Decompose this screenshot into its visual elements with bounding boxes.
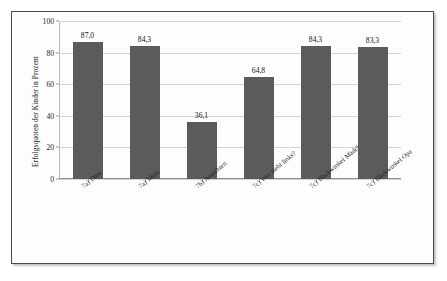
y-tick-label: 100 xyxy=(43,17,54,26)
bar: 83,3 xyxy=(358,47,388,179)
gridline xyxy=(59,179,401,180)
y-tick-mark xyxy=(56,21,59,22)
chart-frame: Erfolgsquoten der Kinder in Prozent 0204… xyxy=(11,11,434,264)
bar-chart: Erfolgsquoten der Kinder in Prozent 0204… xyxy=(12,12,435,265)
y-tick-mark xyxy=(56,84,59,85)
bar: 84,3 xyxy=(301,46,331,179)
y-tick-label: 80 xyxy=(46,48,54,57)
bar-value-label: 36,1 xyxy=(195,111,208,120)
bar: 87,0 xyxy=(73,42,103,179)
y-tick-label: 40 xyxy=(46,111,54,120)
bar-value-label: 64,8 xyxy=(252,66,265,75)
bar-value-label: 83,3 xyxy=(366,36,379,45)
y-tick-mark xyxy=(56,179,59,180)
y-tick-mark xyxy=(56,115,59,116)
plot-area: 02040608010087,07a) Dani84,37a) Maxi36,1… xyxy=(59,21,401,179)
y-axis-title: Erfolgsquoten der Kinder in Prozent xyxy=(31,37,40,187)
gridline xyxy=(59,116,401,117)
y-tick-mark xyxy=(56,147,59,148)
y-tick-label: 20 xyxy=(46,143,54,152)
gridline xyxy=(59,53,401,54)
bar-value-label: 84,3 xyxy=(309,35,322,44)
gridline xyxy=(59,84,401,85)
bar: 84,3 xyxy=(130,46,160,179)
gridline xyxy=(59,21,401,22)
y-axis-line xyxy=(59,21,60,179)
y-tick-label: 0 xyxy=(50,175,54,184)
bar-value-label: 84,3 xyxy=(138,35,151,44)
y-tick-mark xyxy=(56,52,59,53)
y-tick-label: 60 xyxy=(46,80,54,89)
bar-value-label: 87,0 xyxy=(81,31,94,40)
bar: 64,8 xyxy=(244,77,274,179)
